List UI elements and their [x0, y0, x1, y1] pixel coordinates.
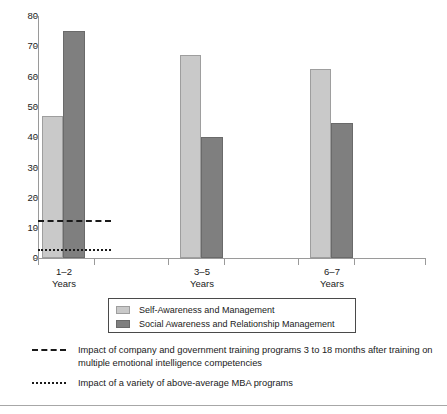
x-tick-1 [94, 259, 95, 265]
dotted-line-key-icon [32, 382, 66, 384]
x-tick-4 [298, 259, 299, 265]
footnote-text-0: Impact of company and government trainin… [78, 344, 440, 369]
x-category-label-2: 6–7 Years [304, 266, 360, 289]
bar-group2-series1[interactable] [331, 123, 353, 258]
bar-group2-series0[interactable] [310, 69, 331, 258]
reference-line-dotted [38, 249, 111, 251]
legend-item-0[interactable]: Self-Awareness and Management [116, 303, 274, 316]
x-category-line-0-0: 1–2 [36, 266, 92, 278]
legend-label-0: Self-Awareness and Management [139, 305, 274, 315]
bar-group1-series0[interactable] [180, 55, 201, 258]
bar-group1-series1[interactable] [201, 137, 223, 258]
bar-group0-series1[interactable] [63, 31, 85, 258]
x-axis-line [38, 258, 426, 259]
legend-swatch-light-icon [116, 306, 130, 314]
legend-swatch-dark-icon [116, 320, 130, 328]
chart-figure: 80 70 60 50 40 30 20 10 [0, 0, 447, 414]
dashed-line-key-icon [32, 349, 66, 351]
legend-item-1[interactable]: Social Awareness and Relationship Manage… [116, 317, 334, 330]
x-category-label-0: 1–2 Years [36, 266, 92, 289]
bottom-divider [0, 405, 447, 406]
x-tick-2 [168, 259, 169, 265]
x-category-line-2-0: 6–7 [304, 266, 360, 278]
footnote-text-1: Impact of a variety of above-average MBA… [78, 377, 440, 390]
x-category-line-2-1: Years [304, 278, 360, 290]
reference-line-dashed [38, 220, 111, 222]
x-category-line-0-1: Years [36, 278, 92, 290]
x-tick-5 [354, 259, 355, 265]
plot-area: 80 70 60 50 40 30 20 10 [0, 0, 447, 275]
x-category-line-1-0: 3–5 [174, 266, 230, 278]
x-category-label-1: 3–5 Years [174, 266, 230, 289]
x-tick-6 [425, 259, 426, 265]
x-tick-0 [38, 259, 39, 265]
footnote-1: Impact of a variety of above-average MBA… [32, 377, 440, 390]
x-tick-3 [224, 259, 225, 265]
bar-group0-series0[interactable] [42, 116, 63, 258]
legend-label-1: Social Awareness and Relationship Manage… [139, 319, 334, 329]
chart-legend: Self-Awareness and Management Social Awa… [108, 298, 356, 333]
footnote-0: Impact of company and government trainin… [32, 344, 440, 369]
x-category-line-1-1: Years [174, 278, 230, 290]
